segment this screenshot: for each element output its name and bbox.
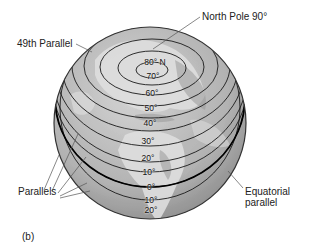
lat-label-30: 30° [142, 137, 155, 146]
parallels-label: Parallels [18, 186, 56, 197]
lat-label-10s: 10° [145, 196, 158, 205]
lat-label-equator: 0° [147, 183, 155, 192]
parallel-49-label: 49th Parallel [17, 38, 73, 49]
equatorial-leader [228, 171, 243, 188]
lat-label-80n: 80° N [144, 58, 165, 67]
lat-label-40: 40° [144, 119, 157, 128]
equatorial-label-line2: parallel [245, 197, 277, 208]
equatorial-label-line1: Equatorial [245, 186, 290, 197]
lat-label-60: 60° [146, 89, 159, 98]
globe-figure: 80° N 70° 60° 50° 40° 30° 20° 10° 0° 10°… [0, 0, 309, 249]
panel-tag: (b) [22, 231, 34, 242]
lat-label-20s: 20° [145, 206, 158, 215]
lat-label-50: 50° [145, 104, 158, 113]
north-pole-label: North Pole 90° [202, 11, 267, 22]
lat-label-10: 10° [143, 168, 156, 177]
lat-label-20: 20° [142, 154, 155, 163]
lat-label-70: 70° [147, 72, 160, 81]
